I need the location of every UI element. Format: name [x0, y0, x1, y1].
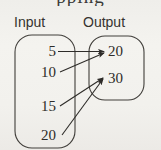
output-value-1: 20: [108, 43, 142, 60]
output-value-2: 30: [108, 70, 142, 87]
arrow-15-to-30: [60, 78, 103, 106]
mapping-diagram-figure: pping Input Output 5 10 15 20 20 30: [0, 0, 161, 150]
input-value-2: 10: [22, 64, 56, 81]
arrow-20-to-30: [62, 79, 103, 135]
input-value-3: 15: [22, 98, 56, 115]
input-value-4: 20: [22, 127, 56, 144]
input-value-1: 5: [22, 43, 56, 60]
arrow-10-to-20: [60, 53, 104, 72]
